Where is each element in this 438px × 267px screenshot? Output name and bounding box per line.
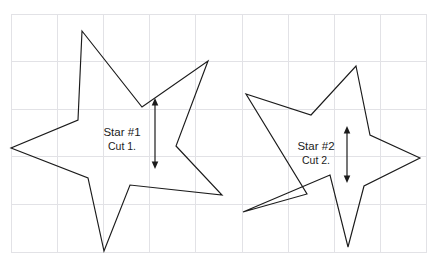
star-pattern-figure: Star #1Cut 1.Star #2Cut 2. bbox=[0, 0, 438, 267]
diagram-canvas: Star #1Cut 1.Star #2Cut 2. bbox=[0, 0, 438, 267]
star-label-sublabel: Cut 1. bbox=[108, 140, 136, 152]
star-label-title: Star #1 bbox=[103, 126, 140, 138]
figure-background bbox=[0, 0, 438, 267]
star-label-sublabel: Cut 2. bbox=[302, 154, 330, 166]
star-label-title: Star #2 bbox=[297, 140, 334, 152]
